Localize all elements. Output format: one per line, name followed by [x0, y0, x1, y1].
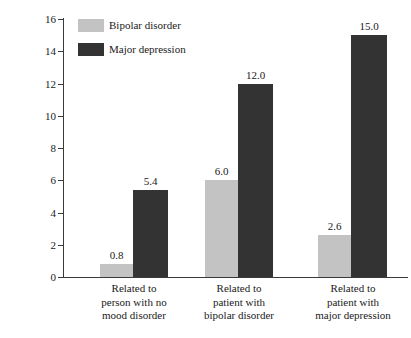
y-axis-tick-label: 16	[30, 14, 56, 25]
plot-area: 0.85.46.012.02.615.0	[63, 19, 408, 277]
y-axis-tick-label: 12	[30, 79, 56, 90]
bar-major-depression	[238, 84, 273, 278]
x-axis-category-label: Related topatient withmajor depression	[295, 282, 411, 323]
category-label-line: Related to	[295, 282, 411, 296]
bar-bipolar-disorder	[205, 180, 238, 277]
y-axis-tick-label: 14	[30, 46, 56, 57]
bar-bipolar-disorder	[318, 235, 351, 277]
category-label-line: mood disorder	[76, 309, 192, 323]
bar-value-label: 12.0	[232, 70, 279, 81]
legend-label: Bipolar disorder	[109, 18, 181, 32]
y-axis-tick-label: 10	[30, 111, 56, 122]
bar-major-depression	[133, 190, 168, 277]
y-axis-tick-label: 6	[30, 175, 56, 186]
legend-swatch	[78, 19, 104, 32]
legend-swatch	[78, 43, 104, 56]
category-label-line: bipolar disorder	[181, 309, 297, 323]
y-axis-tick-label: 4	[30, 208, 56, 219]
category-label-line: Related to	[76, 282, 192, 296]
x-axis-line	[63, 277, 408, 278]
bar-bipolar-disorder	[100, 264, 133, 277]
x-axis-category-label: Related topatient withbipolar disorder	[181, 282, 297, 323]
y-axis-tick-label: 8	[30, 143, 56, 154]
category-label-line: major depression	[295, 309, 411, 323]
category-label-line: Related to	[181, 282, 297, 296]
category-label-line: patient with	[295, 296, 411, 310]
bar-major-depression	[351, 35, 387, 277]
bar-value-label: 5.4	[127, 176, 174, 187]
chart-figure: Lifetime risk for 1st-degree relatives (…	[0, 0, 411, 338]
x-axis-category-label: Related toperson with nomood disorder	[76, 282, 192, 323]
category-label-line: patient with	[181, 296, 297, 310]
bar-value-label: 15.0	[345, 21, 393, 32]
y-axis-tick-label: 2	[30, 240, 56, 251]
legend-label: Major depression	[109, 42, 186, 56]
y-axis-tick	[58, 277, 63, 278]
y-axis-tick-label: 0	[30, 272, 56, 283]
category-label-line: person with no	[76, 296, 192, 310]
